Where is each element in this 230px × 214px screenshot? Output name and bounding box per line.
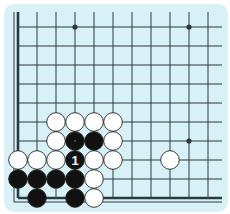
white-stone-icon <box>85 189 104 208</box>
white-stone-icon <box>47 113 66 132</box>
star-point-icon <box>74 140 76 142</box>
black-stone-icon <box>47 170 66 189</box>
black-stone <box>66 189 85 208</box>
black-stone <box>47 170 66 189</box>
white-stone-icon <box>85 151 104 170</box>
black-stone-icon <box>28 170 47 189</box>
star-point-icon <box>186 24 191 29</box>
white-stone <box>104 132 123 151</box>
white-stone-icon <box>85 170 104 189</box>
white-stone-icon <box>85 113 104 132</box>
white-stone <box>104 113 123 132</box>
white-stone-icon <box>28 151 47 170</box>
white-stone-icon <box>104 132 123 151</box>
white-stone-icon <box>47 151 66 170</box>
black-stone: 1 <box>66 151 85 170</box>
black-stone <box>28 189 47 208</box>
white-stone <box>9 151 28 170</box>
white-stone-icon <box>161 151 180 170</box>
black-stone-icon <box>66 189 85 208</box>
white-stone <box>28 151 47 170</box>
white-stone <box>47 132 66 151</box>
move-number-label: 1 <box>71 153 78 168</box>
white-stone-icon <box>47 132 66 151</box>
white-stone-icon <box>104 113 123 132</box>
white-stone <box>47 151 66 170</box>
black-stone <box>85 132 104 151</box>
black-stone <box>66 170 85 189</box>
black-stone <box>28 170 47 189</box>
white-stone <box>47 113 66 132</box>
white-stone-icon <box>66 113 85 132</box>
black-stone-icon <box>9 170 28 189</box>
black-stone-icon <box>66 170 85 189</box>
black-stone-icon <box>28 189 47 208</box>
white-stone <box>85 113 104 132</box>
white-stone <box>66 113 85 132</box>
white-stone <box>104 151 123 170</box>
white-stone <box>85 170 104 189</box>
white-stone <box>161 151 180 170</box>
white-stone <box>85 151 104 170</box>
go-board-diagram: 1 <box>0 0 230 214</box>
star-point-icon <box>186 138 191 143</box>
white-stone-icon <box>104 151 123 170</box>
white-stone-icon <box>9 151 28 170</box>
white-stone <box>85 189 104 208</box>
black-stone-icon <box>85 132 104 151</box>
black-stone <box>9 170 28 189</box>
star-point-icon <box>72 24 77 29</box>
black-stone <box>66 132 85 151</box>
